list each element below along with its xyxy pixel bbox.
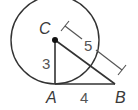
geometry-diagram: C 3 A 4 B 5 [0,0,138,110]
point-c-dot [52,37,58,43]
label-a: A [45,89,57,106]
dimension-line-cb [61,21,126,75]
label-cb-length: 5 [84,37,92,54]
label-b: B [115,89,126,106]
label-ca-length: 3 [42,55,50,72]
label-c: C [39,20,51,37]
label-ab-length: 4 [80,89,88,106]
